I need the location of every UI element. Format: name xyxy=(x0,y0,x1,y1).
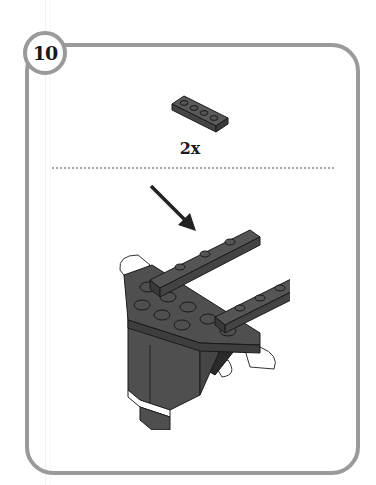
dotted-divider xyxy=(52,167,334,169)
brick-model-assembly-icon xyxy=(110,225,290,430)
part-quantity-label: 2x xyxy=(172,139,208,158)
brick-plate-1x4-icon xyxy=(170,92,230,134)
step-number-badge: 10 xyxy=(23,31,67,75)
step-number: 10 xyxy=(33,42,57,64)
